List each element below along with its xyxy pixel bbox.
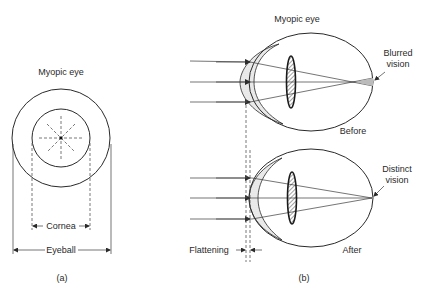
blurred-vision-label-1: Blurred [383,48,412,58]
refracted-ray-1-after [252,178,372,198]
refracted-ray-3-after [252,198,372,219]
distinct-vision-label-2: vision [385,175,408,185]
figure-a-front-view: Myopic eye Cornea Eyeball (a) [12,67,111,283]
flattening-label: Flattening [189,245,229,255]
figure-b-before: Myopic eye Blurred vision Before [190,14,413,136]
figure-b-after: Distinct vision After [190,149,412,255]
cornea-flattened-after [249,158,282,240]
figure-b-caption: (b) [299,273,310,283]
after-label: After [342,245,361,255]
lens-after [288,172,297,224]
figure-a-caption: (a) [57,273,68,283]
lens-before [287,56,296,108]
blurred-vision-label-2: vision [386,59,409,69]
cornea-label: Cornea [46,221,76,231]
myopia-diagram: Myopic eye Cornea Eyeball (a) Myopic eye [0,0,424,296]
flattening-dimension: Flattening [189,100,262,262]
before-label: Before [340,126,367,136]
distinct-vision-label-1: Distinct [382,164,412,174]
refracted-ray-1 [250,62,373,86]
figure-b-title: Myopic eye [274,14,320,24]
blurred-vision-pointer [375,72,385,80]
eyeball-label: Eyeball [46,245,76,255]
refracted-ray-3 [250,78,373,102]
blur-spot [355,78,373,86]
figure-a-title: Myopic eye [38,67,84,77]
distinct-vision-pointer [374,186,384,196]
pupil-center-dot [59,136,62,139]
